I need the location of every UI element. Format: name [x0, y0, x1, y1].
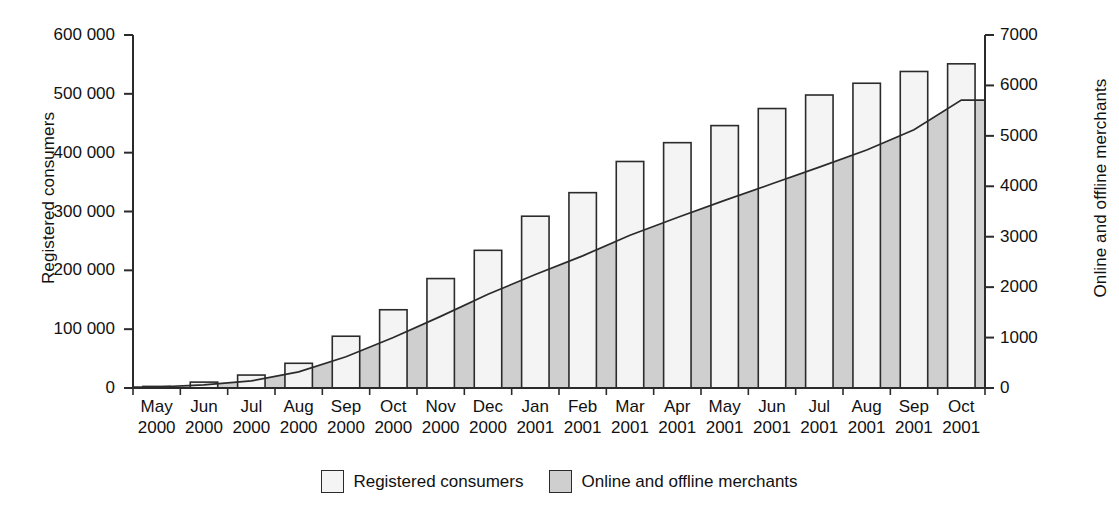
- legend-label: Registered consumers: [353, 472, 523, 492]
- x-axis-category-label: Jun2000: [180, 396, 227, 440]
- bar-registered-consumers: [948, 64, 975, 388]
- y-axis-right-tick-label: 4000: [1000, 177, 1038, 194]
- bar-registered-consumers: [332, 336, 359, 388]
- bar-registered-consumers: [806, 95, 833, 388]
- x-axis-month-label: Oct: [370, 396, 417, 417]
- bar-registered-consumers: [900, 71, 927, 388]
- legend-swatch-icon: [549, 470, 572, 493]
- x-axis-year-label: 2001: [654, 417, 701, 438]
- plot-area: [0, 0, 1119, 522]
- x-axis-category-label: Dec2000: [464, 396, 511, 440]
- x-axis-category-label: Feb2001: [559, 396, 606, 440]
- x-axis-year-label: 2000: [180, 417, 227, 438]
- x-axis-year-label: 2001: [701, 417, 748, 438]
- y-axis-left-title: Registered consumers: [39, 33, 59, 363]
- x-axis-category-label: Sep2000: [322, 396, 369, 440]
- bar-registered-consumers: [711, 126, 738, 388]
- x-axis-year-label: 2001: [938, 417, 985, 438]
- bar-registered-consumers: [569, 193, 596, 388]
- x-axis-month-label: Jul: [796, 396, 843, 417]
- x-axis-category-label: Sep2001: [890, 396, 937, 440]
- x-axis-year-label: 2000: [417, 417, 464, 438]
- x-axis-month-label: Dec: [464, 396, 511, 417]
- legend-item: Online and offline merchants: [549, 470, 797, 493]
- legend-item: Registered consumers: [321, 470, 523, 493]
- x-axis-month-label: Oct: [938, 396, 985, 417]
- x-axis-year-label: 2001: [748, 417, 795, 438]
- bar-registered-consumers: [427, 279, 454, 388]
- x-axis-category-label: Aug2001: [843, 396, 890, 440]
- x-axis-year-label: 2000: [133, 417, 180, 438]
- x-axis-year-label: 2001: [796, 417, 843, 438]
- y-axis-right-tick-label: 2000: [1000, 278, 1038, 295]
- y-axis-right-tick-label: 1000: [1000, 329, 1038, 346]
- chart-legend: Registered consumersOnline and offline m…: [0, 470, 1119, 493]
- legend-label: Online and offline merchants: [581, 472, 797, 492]
- x-axis-tick-labels: May2000Jun2000Jul2000Aug2000Sep2000Oct20…: [133, 396, 985, 440]
- x-axis-year-label: 2000: [322, 417, 369, 438]
- x-axis-category-label: Nov2000: [417, 396, 464, 440]
- x-axis-category-label: Aug2000: [275, 396, 322, 440]
- x-axis-category-label: Mar2001: [606, 396, 653, 440]
- x-axis-month-label: Nov: [417, 396, 464, 417]
- x-axis-month-label: Aug: [843, 396, 890, 417]
- x-axis-year-label: 2001: [890, 417, 937, 438]
- y-axis-left-tick-label: 0: [106, 379, 115, 396]
- x-axis-month-label: Apr: [654, 396, 701, 417]
- y-axis-left-tick-label: 600 000: [54, 26, 115, 43]
- y-axis-right-tick-label: 7000: [1000, 26, 1038, 43]
- bar-registered-consumers: [758, 109, 785, 388]
- y-axis-left-tick-label: 500 000: [54, 85, 115, 102]
- x-axis-year-label: 2001: [606, 417, 653, 438]
- x-axis-month-label: May: [701, 396, 748, 417]
- x-axis-year-label: 2000: [370, 417, 417, 438]
- y-axis-left-tick-label: 400 000: [54, 144, 115, 161]
- x-axis-month-label: Feb: [559, 396, 606, 417]
- x-axis-month-label: Sep: [322, 396, 369, 417]
- x-axis-month-label: Jul: [228, 396, 275, 417]
- y-axis-right-tick-label: 0: [1000, 379, 1009, 396]
- x-axis-year-label: 2001: [559, 417, 606, 438]
- x-axis-year-label: 2000: [228, 417, 275, 438]
- x-axis-category-label: Jul2000: [228, 396, 275, 440]
- x-axis-category-label: May2001: [701, 396, 748, 440]
- bar-registered-consumers: [380, 310, 407, 388]
- x-axis-year-label: 2000: [464, 417, 511, 438]
- x-axis-year-label: 2001: [512, 417, 559, 438]
- x-axis-category-label: Oct2000: [370, 396, 417, 440]
- x-axis-year-label: 2000: [275, 417, 322, 438]
- y-axis-left-tick-label: 100 000: [54, 320, 115, 337]
- x-axis-category-label: Jan2001: [512, 396, 559, 440]
- x-axis-category-label: Jun2001: [748, 396, 795, 440]
- x-axis-category-label: Apr2001: [654, 396, 701, 440]
- x-axis-month-label: Aug: [275, 396, 322, 417]
- y-axis-left-tick-label: 300 000: [54, 203, 115, 220]
- y-axis-right-title: Online and offline merchants: [1091, 8, 1111, 368]
- y-axis-right-tick-label: 6000: [1000, 76, 1038, 93]
- legend-swatch-icon: [321, 470, 344, 493]
- x-axis-month-label: Jun: [180, 396, 227, 417]
- bar-registered-consumers: [474, 250, 501, 388]
- bar-registered-consumers: [853, 83, 880, 388]
- x-axis-category-label: May2000: [133, 396, 180, 440]
- y-axis-right-tick-label: 3000: [1000, 228, 1038, 245]
- bar-registered-consumers: [616, 161, 643, 388]
- x-axis-year-label: 2001: [843, 417, 890, 438]
- y-axis-right-tick-label: 5000: [1000, 127, 1038, 144]
- x-axis-category-label: Jul2001: [796, 396, 843, 440]
- y-axis-left-tick-label: 200 000: [54, 261, 115, 278]
- x-axis-month-label: May: [133, 396, 180, 417]
- x-axis-month-label: Mar: [606, 396, 653, 417]
- x-axis-month-label: Jan: [512, 396, 559, 417]
- bar-registered-consumers: [285, 363, 312, 388]
- x-axis-category-label: Oct2001: [938, 396, 985, 440]
- bar-registered-consumers: [522, 216, 549, 388]
- x-axis-month-label: Sep: [890, 396, 937, 417]
- bar-registered-consumers: [664, 143, 691, 388]
- chart-figure: Registered consumers Online and offline …: [0, 0, 1119, 522]
- x-axis-month-label: Jun: [748, 396, 795, 417]
